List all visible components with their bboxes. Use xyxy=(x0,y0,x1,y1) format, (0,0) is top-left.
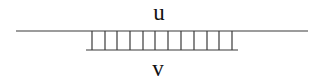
rung-group xyxy=(92,31,232,50)
top-strand-label: u xyxy=(144,1,174,24)
ladder-diagram: u v xyxy=(0,0,325,82)
bottom-strand-label: v xyxy=(143,57,173,80)
